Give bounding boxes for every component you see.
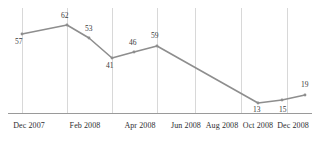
data-markers — [21, 24, 307, 105]
tick-label-6: Dec 2008 — [277, 122, 309, 130]
tick-label-1: Feb 2008 — [70, 122, 101, 130]
value-label-1: 62 — [61, 12, 69, 20]
data-point-0 — [21, 33, 24, 36]
value-label-7: 15 — [279, 106, 287, 114]
value-label-2: 53 — [85, 25, 93, 33]
data-point-1 — [66, 24, 69, 27]
data-point-6 — [257, 102, 260, 105]
data-point-5 — [156, 45, 159, 48]
value-label-3: 41 — [106, 62, 114, 70]
tick-label-5: Oct 2008 — [243, 122, 273, 130]
value-label-0: 57 — [15, 38, 23, 46]
value-label-8: 19 — [301, 81, 309, 89]
value-label-5: 59 — [151, 32, 159, 40]
data-series-line — [22, 25, 305, 103]
tick-label-0: Dec 2007 — [13, 122, 45, 130]
value-label-6: 13 — [253, 106, 261, 114]
data-point-3 — [111, 57, 114, 60]
tick-label-4: Aug 2008 — [206, 122, 239, 130]
tick-label-2: Apr 2008 — [124, 122, 155, 130]
data-point-7 — [281, 99, 284, 102]
data-point-4 — [133, 51, 136, 54]
data-point-8 — [304, 94, 307, 97]
data-point-2 — [88, 37, 91, 40]
tick-label-3: Jun 2008 — [171, 122, 201, 130]
value-label-4: 46 — [129, 39, 137, 47]
line-chart: 576253414659131519 Dec 2007Feb 2008Apr 2… — [0, 0, 319, 142]
